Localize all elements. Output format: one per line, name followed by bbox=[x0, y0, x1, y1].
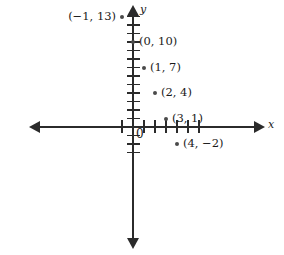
x-axis-right-arrow-icon bbox=[254, 121, 265, 133]
data-point-label: (2, 4) bbox=[161, 85, 192, 99]
y-axis-tick bbox=[127, 16, 140, 18]
y-axis-tick bbox=[127, 50, 140, 52]
data-point-marker bbox=[153, 91, 157, 95]
origin-label: 0 bbox=[136, 127, 144, 141]
x-axis-line bbox=[40, 126, 256, 128]
data-point-label: (−1, 13) bbox=[0, 9, 116, 23]
data-point-label: (0, 10) bbox=[139, 34, 177, 48]
data-point-label: (1, 7) bbox=[150, 60, 181, 74]
data-point-marker bbox=[164, 117, 168, 121]
y-axis-tick bbox=[127, 84, 140, 86]
y-axis-tick bbox=[127, 152, 140, 154]
data-point-label: (3, 1) bbox=[172, 111, 203, 125]
x-axis-label: x bbox=[268, 118, 274, 131]
y-axis-tick bbox=[127, 143, 140, 145]
data-point-marker bbox=[131, 40, 135, 44]
y-axis-up-arrow-icon bbox=[127, 5, 139, 16]
y-axis-tick bbox=[127, 24, 140, 26]
y-axis-tick bbox=[127, 109, 140, 111]
y-axis-label: y bbox=[140, 3, 146, 16]
x-axis-tick bbox=[121, 120, 123, 133]
y-axis-tick bbox=[127, 67, 140, 69]
data-point-label: (4, −2) bbox=[183, 136, 224, 150]
data-point-marker bbox=[142, 66, 146, 70]
x-axis-left-arrow-icon bbox=[29, 121, 40, 133]
data-point-marker bbox=[175, 142, 179, 146]
x-axis-tick bbox=[154, 120, 156, 133]
y-axis-tick bbox=[127, 101, 140, 103]
y-axis-tick bbox=[127, 58, 140, 60]
y-axis-down-arrow-icon bbox=[127, 238, 139, 249]
y-axis-tick bbox=[127, 75, 140, 77]
y-axis-tick bbox=[127, 118, 140, 120]
y-axis-tick bbox=[127, 92, 140, 94]
x-axis-tick bbox=[165, 120, 167, 133]
data-point-marker bbox=[120, 15, 124, 19]
coordinate-plane-graph: y x 0 (−1, 13)(0, 10)(1, 7)(2, 4)(3, 1)(… bbox=[0, 0, 284, 255]
y-axis-line bbox=[132, 14, 134, 240]
